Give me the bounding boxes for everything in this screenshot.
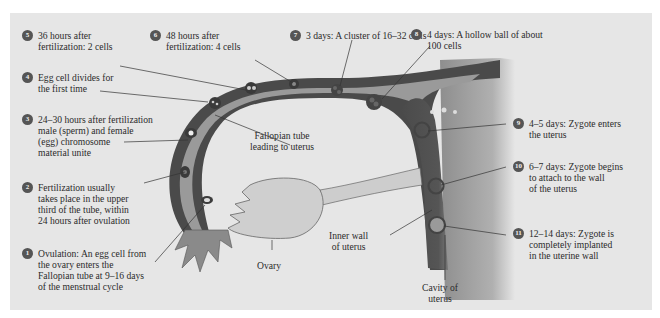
step-4-label: 4 Egg cell divides forthe first time xyxy=(22,72,113,94)
step-2-badge: 2 xyxy=(22,182,33,193)
step-5-line-2: fertilization: 2 cells xyxy=(38,41,113,52)
inner-wall-label-line-1: Inner wall xyxy=(329,230,368,241)
step-7-label: 7 3 days: A cluster of 16–32 cells xyxy=(290,30,426,41)
step-5-label: 5 36 hours afterfertilization: 2 cells xyxy=(22,30,113,52)
step-9-line-1: 4–5 days: Zygote enters xyxy=(529,118,621,129)
step-2-line-2: takes place in the upper xyxy=(38,193,130,204)
step-10-line-1: 6–7 days: Zygote begins xyxy=(529,161,623,172)
egg-cell-5 xyxy=(245,82,257,94)
inner-wall-label: Inner wall of uterus xyxy=(329,230,368,252)
step-2-line-3: third of the tube, within xyxy=(38,204,130,215)
egg-cell-6 xyxy=(289,79,299,89)
egg-cell-4 xyxy=(209,97,221,109)
step-10-badge: 10 xyxy=(513,161,524,172)
step-2-line-1: Fertilization usually xyxy=(38,182,130,193)
step-8-line-1: 4 days: A hollow ball of about xyxy=(427,29,543,40)
step-1-line-1: Ovulation: An egg cell from xyxy=(38,248,146,259)
step-3-line-4: material unite xyxy=(38,147,153,158)
step-1-line-4: of the menstrual cycle xyxy=(38,281,146,292)
step-10-label: 10 6–7 days: Zygote beginsto attach to t… xyxy=(513,161,623,194)
step-11-line-1: 12–14 days: Zygote is xyxy=(529,228,614,239)
ovary-label-text: Ovary xyxy=(257,260,281,271)
step-3-label: 3 24–30 hours after fertilizationmale (s… xyxy=(22,114,153,158)
step-9-badge: 9 xyxy=(513,118,524,129)
step-6-badge: 6 xyxy=(150,30,161,41)
cavity-label: Cavity of uterus xyxy=(422,282,458,304)
cavity-label-line-2: uterus xyxy=(422,293,458,304)
step-11-line-2: completely implanted xyxy=(529,239,614,250)
ovary xyxy=(228,178,323,238)
ovarian-ligament xyxy=(320,168,422,205)
step-1-badge: 1 xyxy=(22,248,33,259)
step-2-label: 2 Fertilization usuallytakes place in th… xyxy=(22,182,130,226)
fimbriae xyxy=(175,230,232,272)
fallopian-tube-label-line-1: Fallopian tube xyxy=(250,130,314,141)
ovary-label: Ovary xyxy=(257,260,281,271)
step-5-line-1: 36 hours after xyxy=(38,30,113,41)
step-4-line-2: the first time xyxy=(38,83,113,94)
step-6-line-1: 48 hours after xyxy=(166,30,241,41)
step-9-line-2: the uterus xyxy=(529,129,621,140)
step-9-label: 9 4–5 days: Zygote entersthe uterus xyxy=(513,118,621,140)
step-1-line-2: the ovary enters the xyxy=(38,259,146,270)
step-2-line-4: 24 hours after ovulation xyxy=(38,215,130,226)
uterus-cavity xyxy=(440,58,515,300)
zygote-implanted xyxy=(429,217,445,233)
step-11-label: 11 12–14 days: Zygote iscompletely impla… xyxy=(513,228,614,261)
morula-cluster xyxy=(331,84,343,96)
step-11-badge: 11 xyxy=(513,228,524,239)
step-8-label: 8 4 days: A hollow ball of about100 cell… xyxy=(411,29,543,51)
step-7-badge: 7 xyxy=(290,30,301,41)
step-3-badge: 3 xyxy=(22,114,33,125)
fallopian-tube-label: Fallopian tube leading to uterus xyxy=(250,130,314,152)
step-6-line-2: fertilization: 4 cells xyxy=(166,41,241,52)
step-3-line-1: 24–30 hours after fertilization xyxy=(38,114,153,125)
step-8-line-2: 100 cells xyxy=(427,40,543,51)
inner-wall-label-line-2: of uterus xyxy=(329,241,368,252)
step-3-line-2: male (sperm) and female xyxy=(38,125,153,136)
egg-cell-3 xyxy=(185,128,197,138)
blastocyst-ball xyxy=(366,94,382,110)
step-10-line-3: of the uterus xyxy=(529,183,623,194)
step-1-line-3: Fallopian tube at 9–16 days xyxy=(38,270,146,281)
step-1-label: 1 Ovulation: An egg cell fromthe ovary e… xyxy=(22,248,146,292)
step-4-badge: 4 xyxy=(22,72,33,83)
step-5-badge: 5 xyxy=(22,30,33,41)
cavity-label-line-1: Cavity of xyxy=(422,282,458,293)
step-10-line-2: to attach to the wall xyxy=(529,172,623,183)
step-3-line-3: (egg) chromosome xyxy=(38,136,153,147)
fallopian-tube-label-line-2: leading to uterus xyxy=(250,141,314,152)
egg-cell-1 xyxy=(201,196,213,204)
step-4-line-1: Egg cell divides for xyxy=(38,72,113,83)
step-8-badge: 8 xyxy=(411,29,422,40)
step-6-label: 6 48 hours afterfertilization: 4 cells xyxy=(150,30,241,52)
step-7-line-1: 3 days: A cluster of 16–32 cells xyxy=(306,30,426,41)
step-11-line-3: in the uterine wall xyxy=(529,250,614,261)
